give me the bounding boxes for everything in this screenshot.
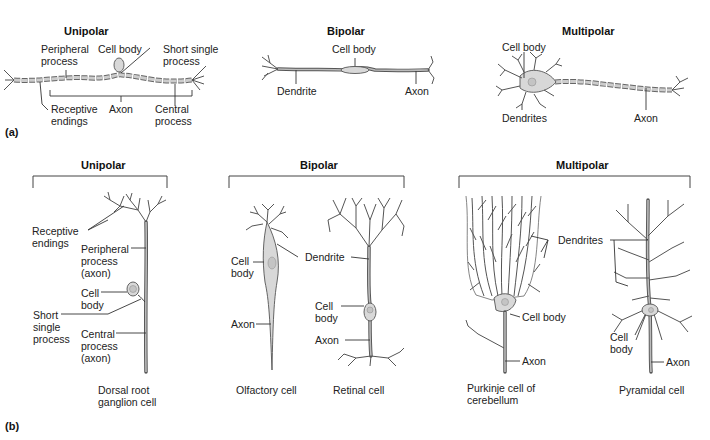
a-multipolar-neuron	[496, 52, 688, 110]
b-bipolar-title: Bipolar	[300, 159, 338, 171]
a-unipolar-central-process-label: Central process	[155, 103, 192, 127]
a-unipolar-peripheral-process-label: Peripheral process	[41, 43, 89, 67]
b-unipolar-bracket	[33, 176, 167, 188]
b-olfactory-caption: Olfactory cell	[236, 384, 297, 396]
b-pyramidal-caption: Pyramidal cell	[619, 384, 684, 396]
a-bipolar-axon-label: Axon	[405, 85, 429, 97]
b-retinal-cell-body-label: Cell body	[315, 300, 338, 324]
b-pyramidal-cell-body-label: Cell body	[610, 331, 633, 355]
b-unipolar-peripheral-process-label: Peripheral process (axon)	[81, 243, 129, 279]
a-unipolar-short-single-process-label: Short single process	[163, 43, 218, 67]
b-unipolar-short-single-process-label: Short single process	[33, 309, 70, 345]
b-bipolar-dendrite-label: Dendrite	[305, 251, 345, 263]
a-unipolar-title: Unipolar	[64, 25, 109, 37]
b-olfactory-axon-label: Axon	[231, 318, 255, 330]
b-unipolar-caption: Dorsal root ganglion cell	[98, 384, 156, 408]
a-bipolar-cell-body-label: Cell body	[332, 43, 376, 55]
part-a-label: (a)	[5, 126, 18, 138]
b-purkinje-cell-body-label: Cell body	[522, 311, 566, 323]
b-retinal-neuron	[328, 198, 404, 366]
b-unipolar-cell-body-label: Cell body	[81, 287, 104, 311]
a-multipolar-title: Multipolar	[562, 25, 615, 37]
a-multipolar-dendrites-label: Dendrites	[502, 112, 547, 124]
a-unipolar-cell-body-label: Cell body	[98, 43, 142, 55]
a-bipolar-neuron	[262, 55, 434, 84]
b-multipolar-bracket	[459, 176, 690, 188]
b-olfactory-cell-body-label: Cell body	[231, 255, 254, 279]
b-multipolar-title: Multipolar	[556, 159, 609, 171]
b-multipolar-dendrites-label: Dendrites	[558, 234, 603, 246]
b-retinal-caption: Retinal cell	[333, 384, 384, 396]
b-unipolar-title: Unipolar	[81, 159, 126, 171]
part-b-label: (b)	[5, 420, 19, 432]
a-multipolar-axon-label: Axon	[634, 112, 658, 124]
b-purkinje-caption: Purkinje cell of cerebellum	[467, 382, 535, 406]
a-bipolar-dendrite-label: Dendrite	[277, 85, 317, 97]
a-multipolar-cell-body-label: Cell body	[502, 41, 546, 53]
b-unipolar-receptive-endings-label: Receptive endings	[32, 225, 79, 249]
b-unipolar-central-process-label: Central process (axon)	[81, 328, 118, 364]
a-unipolar-receptive-endings-label: Receptive endings	[51, 103, 98, 127]
neuron-diagram-drawing	[0, 0, 710, 440]
b-bipolar-bracket	[229, 176, 404, 188]
b-retinal-axon-label: Axon	[315, 334, 339, 346]
a-bipolar-title: Bipolar	[327, 25, 365, 37]
b-purkinje-neuron	[466, 196, 548, 372]
b-purkinje-axon-label: Axon	[522, 355, 546, 367]
b-pyramidal-axon-label: Axon	[666, 356, 690, 368]
b-olfactory-neuron	[246, 204, 298, 370]
a-unipolar-axon-label: Axon	[109, 103, 133, 115]
